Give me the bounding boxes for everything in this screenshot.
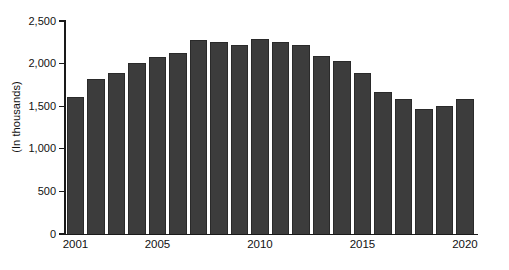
bar bbox=[354, 73, 372, 234]
y-axis-tick-label-wrap: 2,000 bbox=[6, 58, 56, 69]
y-axis-tick bbox=[59, 233, 65, 234]
bar bbox=[231, 45, 249, 234]
y-axis-tick-label-wrap: 1,500 bbox=[6, 101, 56, 112]
y-axis-tick-label: 0 bbox=[10, 229, 56, 240]
bar bbox=[415, 109, 433, 234]
bar-chart: (In thousands) 05001,0001,5002,0002,500 … bbox=[0, 0, 509, 270]
bar bbox=[374, 92, 392, 234]
bar bbox=[436, 106, 454, 234]
bar bbox=[395, 99, 413, 234]
y-axis-tick-label: 1,500 bbox=[10, 101, 56, 112]
bar bbox=[333, 61, 351, 234]
bar bbox=[272, 42, 290, 234]
x-axis-tick-label: 2020 bbox=[452, 238, 478, 251]
y-axis-tick bbox=[59, 148, 65, 149]
bar bbox=[313, 56, 331, 234]
y-axis-tick bbox=[59, 106, 65, 107]
bar bbox=[292, 45, 310, 234]
bar bbox=[190, 40, 208, 234]
bar bbox=[210, 42, 228, 234]
y-axis-tick-label-wrap: 0 bbox=[6, 229, 56, 240]
y-axis-tick-label-wrap: 500 bbox=[6, 186, 56, 197]
y-axis-tick-label-wrap: 2,500 bbox=[6, 16, 56, 27]
bar bbox=[128, 63, 146, 234]
bar bbox=[87, 79, 105, 234]
x-axis-tick-label: 2015 bbox=[350, 238, 376, 251]
bar bbox=[108, 73, 126, 234]
y-axis-title-text: (In thousands) bbox=[10, 81, 22, 153]
x-axis-tick-label: 2005 bbox=[145, 238, 171, 251]
x-axis-tick-label: 2001 bbox=[63, 238, 89, 251]
y-axis-tick-label-wrap: 1,000 bbox=[6, 143, 56, 154]
y-axis-tick-label: 500 bbox=[10, 186, 56, 197]
y-axis-tick-label: 2,000 bbox=[10, 58, 56, 69]
y-axis-title: (In thousands) bbox=[2, 0, 30, 234]
bar bbox=[169, 53, 187, 234]
y-axis-tick bbox=[59, 63, 65, 64]
y-axis-tick-label: 1,000 bbox=[10, 143, 56, 154]
x-axis-tick-label: 2010 bbox=[247, 238, 273, 251]
y-axis-tick-label: 2,500 bbox=[10, 16, 56, 27]
bar bbox=[149, 57, 167, 234]
y-axis-tick bbox=[59, 20, 65, 21]
bar bbox=[251, 39, 269, 234]
bar bbox=[67, 97, 85, 234]
bar bbox=[456, 99, 474, 234]
y-axis-line bbox=[64, 20, 66, 235]
y-axis-tick bbox=[59, 191, 65, 192]
